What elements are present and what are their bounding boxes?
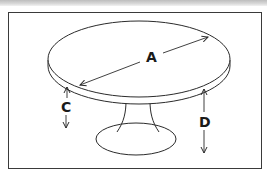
label-c: C [61, 99, 71, 115]
table-base [96, 123, 176, 155]
tabletop [48, 21, 230, 97]
dimension-d: D [199, 89, 211, 153]
label-d: D [199, 114, 211, 130]
dimension-c: C [61, 87, 71, 128]
label-a: A [146, 49, 157, 65]
table-diagram: A C D [0, 0, 267, 174]
